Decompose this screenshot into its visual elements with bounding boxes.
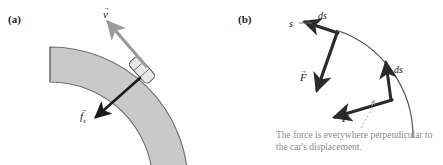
- arc-length-label: s: [289, 18, 293, 29]
- force-symbol: F: [300, 72, 307, 82]
- velocity-vector-label: → v: [103, 6, 110, 19]
- friction-vector-label: → fs: [80, 108, 87, 126]
- force-vector-1: [317, 33, 337, 90]
- force-vector-label-1: → F: [300, 69, 307, 82]
- physics-figure: (a) (b): [0, 0, 443, 165]
- velocity-vector-arrow: [108, 22, 146, 66]
- panel-a-road-band: [50, 47, 188, 165]
- force-symbol: F: [342, 113, 349, 123]
- displacement-label-2: ds: [394, 64, 403, 75]
- figure-caption: The force is everywhere perpendicular to…: [276, 130, 443, 153]
- caption-leader-line: [361, 100, 374, 128]
- force-vector-label-2: → F: [342, 110, 349, 123]
- friction-subscript: s: [83, 117, 86, 125]
- displacement-vector-1: [305, 22, 338, 33]
- displacement-label-1: ds: [318, 10, 327, 21]
